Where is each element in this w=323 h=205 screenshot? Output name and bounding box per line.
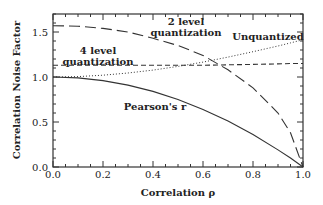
- annotation-2-level-line1: 2 level: [168, 16, 205, 27]
- chart: 0.00.20.40.60.81.00.00.51.01.5 Correlati…: [0, 0, 323, 205]
- y-tick-label: 0.0: [32, 162, 48, 173]
- annotation-2-level-line2: quantization: [151, 27, 223, 38]
- annotation-unquantized: Unquantized: [232, 31, 303, 42]
- y-tick-label: 1.5: [32, 27, 48, 38]
- x-tick-label: 0.2: [95, 169, 111, 180]
- x-axis-title: Correlation ρ: [141, 187, 216, 198]
- x-tick-label: 1.0: [295, 169, 311, 180]
- annotation-4-level-line2: quantization: [63, 56, 135, 67]
- series-line-pearson-s-r: [53, 77, 303, 167]
- x-tick-label: 0.6: [195, 169, 211, 180]
- x-tick-label: 0.4: [145, 169, 161, 180]
- y-axis-title: Correlation Noise Factor: [11, 20, 22, 159]
- annotation-4-level-line1: 4 level: [80, 45, 117, 56]
- annotation-pearsons-r: Pearson's r: [124, 101, 187, 112]
- x-tick-label: 0.8: [245, 169, 261, 180]
- y-tick-label: 1.0: [32, 72, 48, 83]
- y-tick-label: 0.5: [32, 117, 48, 128]
